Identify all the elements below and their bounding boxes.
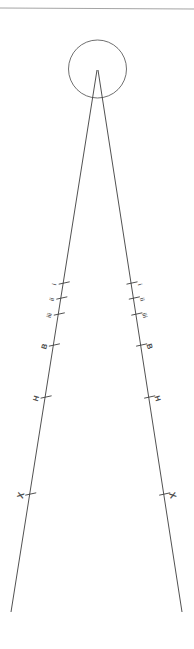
top-horizontal-rule bbox=[0, 8, 194, 9]
rail-tick-mark bbox=[127, 282, 138, 284]
rail-tick-mark bbox=[129, 297, 140, 299]
rail-tick-label: i bbox=[137, 283, 143, 287]
left-rail-marks: iiiiiiBHX bbox=[15, 282, 70, 500]
right-rail-marks: iiiiiiBHX bbox=[127, 282, 179, 500]
diagram-canvas: iiiiiiBHX iiiiiiBHX bbox=[0, 0, 194, 649]
rail-tick-label: B bbox=[145, 343, 155, 351]
rail-tick-mark bbox=[49, 344, 60, 346]
rail-tick-mark bbox=[25, 493, 36, 495]
rail-tick-label: iii bbox=[46, 312, 53, 319]
rail-tick-label: H bbox=[153, 395, 163, 403]
rail-tick-mark bbox=[41, 396, 52, 398]
rail-tick-label: X bbox=[167, 491, 178, 500]
rail-tick-label: X bbox=[15, 491, 26, 500]
rail-tick-label: iii bbox=[141, 312, 148, 319]
rail-tick-mark bbox=[59, 282, 70, 284]
rail-tick-label: i bbox=[51, 282, 57, 286]
right-rail bbox=[98, 70, 182, 612]
rail-tick-mark bbox=[56, 297, 67, 299]
sun-circle bbox=[69, 40, 127, 98]
rail-tick-mark bbox=[131, 313, 142, 315]
perspective-rails-figure: iiiiiiBHX iiiiiiBHX bbox=[0, 0, 194, 649]
rail-tick-label: B bbox=[39, 342, 49, 350]
left-rail bbox=[11, 70, 97, 612]
rail-tick-label: ii bbox=[139, 297, 146, 302]
rail-tick-label: H bbox=[31, 395, 41, 403]
rail-tick-mark bbox=[54, 313, 65, 315]
rail-tick-label: ii bbox=[49, 297, 56, 302]
